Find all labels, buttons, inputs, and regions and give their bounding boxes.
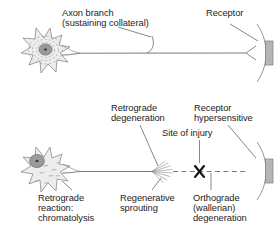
end-plate-injured [266, 159, 274, 183]
normal-neuron-panel [21, 24, 273, 82]
label-regenerative-sprouting-line1: Regenerative [120, 193, 175, 203]
soma-injured [21, 147, 70, 192]
label-regenerative-sprouting-line2: sprouting [120, 203, 158, 213]
axon-proximal-stump [62, 172, 152, 174]
label-retrograde-reaction-line3: chromatolysis [38, 213, 94, 223]
label-orthograde-degeneration-line3: degeneration [193, 213, 247, 223]
leader-retrograde-degeneration [140, 125, 158, 166]
regenerative-sprouts [152, 161, 172, 183]
label-axon-branch-line1: Axon branch [62, 8, 114, 18]
nucleolus-normal [44, 48, 47, 51]
label-receptor-hypersensitive-line1: Receptor [194, 103, 231, 113]
injured-neuron-panel [21, 125, 273, 200]
label-receptor: Receptor [206, 8, 243, 18]
leader-receptor-hypersensitive [228, 125, 256, 158]
leader-regenerative-sprouting [152, 178, 161, 190]
axon-normal [62, 53, 246, 55]
label-axon-branch-line2: (sustaining collateral) [62, 18, 149, 28]
label-retrograde-reaction-line2: reaction: [38, 203, 73, 213]
nucleolus-injured [36, 160, 39, 163]
label-orthograde-degeneration-line1: Orthograde [193, 193, 240, 203]
leader-retrograde-reaction [62, 181, 72, 190]
label-receptor-hypersensitive-line2: hypersensitive [194, 113, 253, 123]
axon-terminal-fork-normal [246, 46, 256, 60]
leader-receptor [230, 24, 258, 41]
neuron-degeneration-figure: Axon branch (sustaining collateral) Rece… [0, 0, 279, 235]
receptor-arc-injured [257, 142, 266, 200]
label-retrograde-degeneration-line1: Retrograde [111, 103, 157, 113]
label-retrograde-reaction-line1: Retrograde [38, 193, 84, 203]
label-orthograde-degeneration-line2: (wallerian) [193, 203, 235, 213]
end-plate-normal [266, 41, 274, 65]
leader-axon-branch [118, 27, 151, 37]
label-site-of-injury: Site of injury [162, 128, 212, 138]
axon-collateral-branch [147, 36, 153, 53]
receptor-arc-normal [257, 24, 266, 82]
label-retrograde-degeneration-line2: degeneration [111, 113, 165, 123]
